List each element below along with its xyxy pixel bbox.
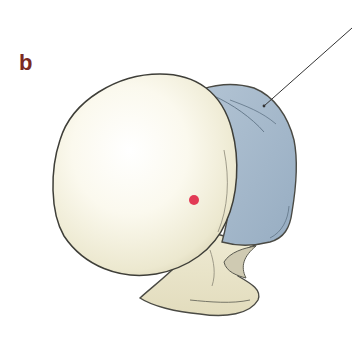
anatomical-figure: b xyxy=(0,0,353,340)
leader-line-tip xyxy=(263,105,266,108)
articular-head xyxy=(53,74,237,275)
bone-illustration xyxy=(0,0,353,340)
red-marker xyxy=(189,195,199,205)
leader-line xyxy=(264,28,352,106)
